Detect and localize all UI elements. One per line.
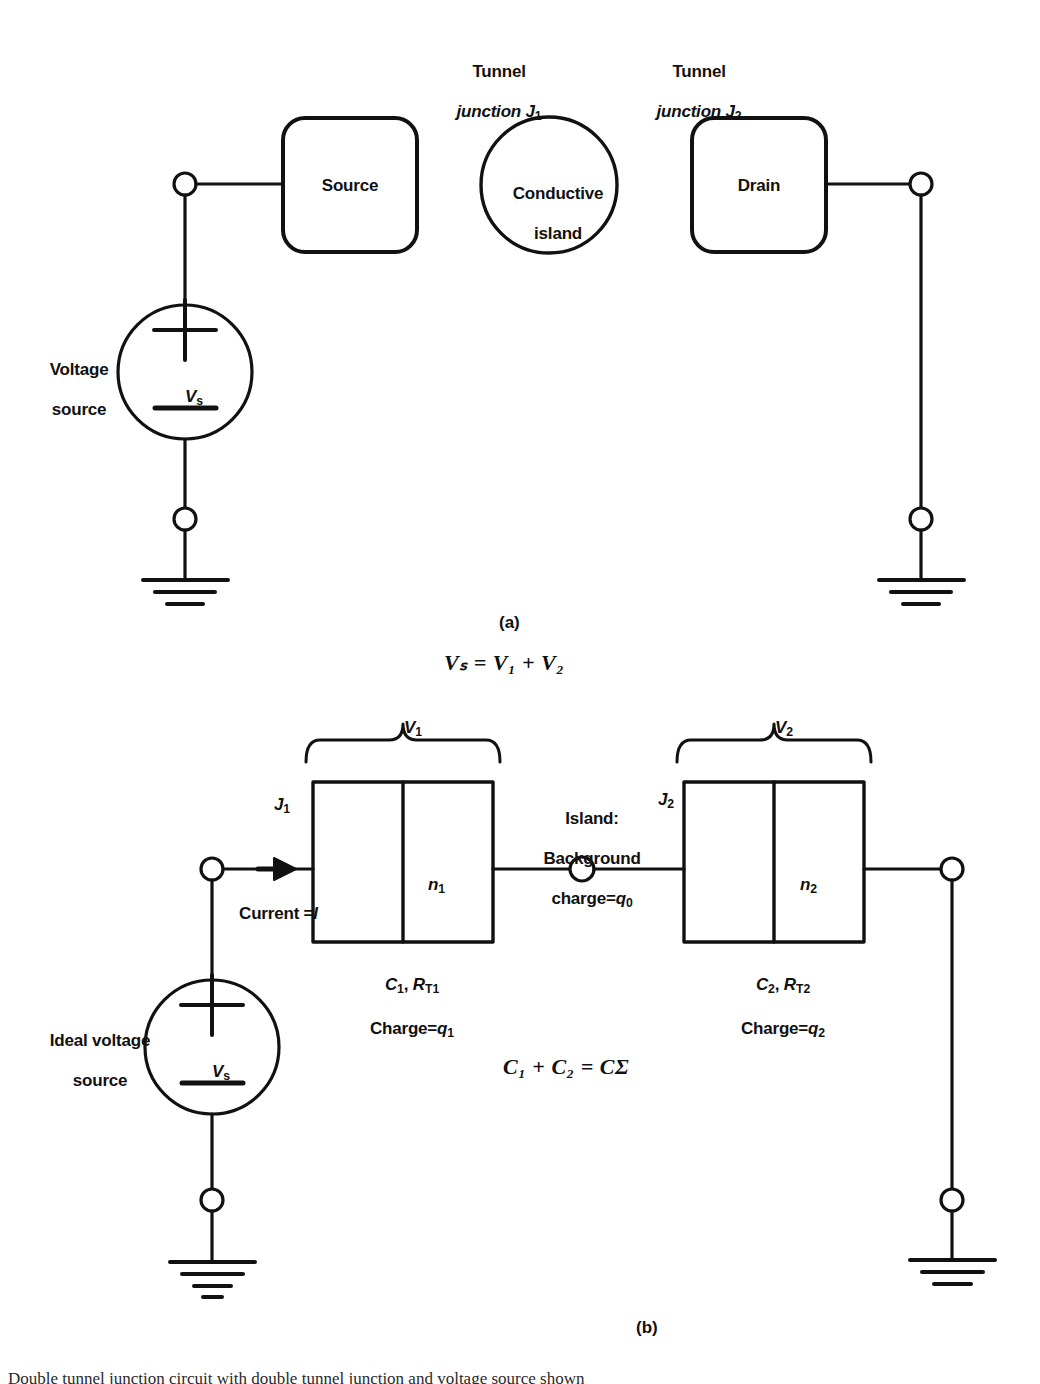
tunnel-junction-2-line2: junction J bbox=[657, 102, 735, 121]
tunnel-junction-1-sub: 1 bbox=[535, 109, 542, 123]
figure-page: Tunnel junction J1 Tunnel junction J2 So… bbox=[0, 0, 1040, 1384]
conductive-island-label: Conductive island bbox=[479, 164, 619, 264]
j1-charge-prefix: Charge= bbox=[370, 1019, 437, 1038]
ideal-voltage-source-line2: source bbox=[73, 1071, 128, 1090]
drain-box-label: Drain bbox=[692, 176, 826, 196]
j1-params-separator: , bbox=[404, 975, 413, 994]
terminal-node-b-ground bbox=[201, 1189, 223, 1211]
ideal-voltage-source-label: Ideal voltage source bbox=[18, 1011, 164, 1111]
voltage-source-a-line1: Voltage bbox=[50, 360, 109, 379]
n1-letter: n bbox=[428, 875, 438, 894]
j2-charge-symbol: q bbox=[808, 1019, 818, 1038]
current-arrow-head bbox=[274, 858, 296, 880]
vs-symbol-b-sub: s bbox=[223, 1069, 230, 1083]
j1-sub: 1 bbox=[283, 802, 290, 816]
tunnel-junction-1-line2: junction J bbox=[457, 102, 535, 121]
n2-sub: 2 bbox=[810, 882, 817, 896]
page-bottom-clipped-text: Double tunnel junction circuit with doub… bbox=[8, 1369, 1032, 1384]
j2-charge-sub: 2 bbox=[818, 1026, 825, 1040]
j2-resistance-letter: R bbox=[784, 975, 796, 994]
island-line1: Island: bbox=[565, 809, 618, 828]
vs-symbol-a-letter: V bbox=[185, 387, 196, 406]
conductive-island-line1: Conductive bbox=[513, 184, 604, 203]
v2-sub: 2 bbox=[786, 725, 793, 739]
junction-1-charge-label: Charge=q1 bbox=[323, 999, 483, 1060]
vs-symbol-a: Vs bbox=[162, 367, 208, 428]
island-charge-label: Island: Background charge=q0 bbox=[512, 789, 654, 930]
n2-letter: n bbox=[800, 875, 810, 894]
current-symbol: I bbox=[313, 904, 318, 923]
tunnel-junction-2-sub: 2 bbox=[735, 109, 742, 123]
island-line2: Background bbox=[543, 849, 640, 868]
current-text: Current = bbox=[239, 904, 313, 923]
v2-brace-label: V2 bbox=[751, 698, 799, 759]
j2-letter: J bbox=[658, 790, 667, 809]
conductive-island-line2: island bbox=[534, 224, 582, 243]
terminal-node-b-right bbox=[941, 858, 963, 880]
equation-vs: Vₛ = V₁ + V₂ bbox=[444, 650, 564, 676]
j1-resistance-letter: R bbox=[413, 975, 425, 994]
source-box-label: Source bbox=[283, 176, 417, 196]
terminal-node-a-left bbox=[174, 173, 196, 195]
voltage-source-label-a: Voltage source bbox=[22, 340, 118, 440]
j1-capacitance-letter: C bbox=[385, 975, 397, 994]
j2-charge-prefix: Charge= bbox=[741, 1019, 808, 1038]
j2-capacitance-sub: 2 bbox=[768, 982, 775, 996]
j2-resistance-sub: T2 bbox=[796, 982, 810, 996]
j2-params-separator: , bbox=[775, 975, 784, 994]
panel-a-caption: (a) bbox=[499, 613, 520, 633]
current-label: Current =I bbox=[221, 884, 371, 944]
n2-label: n2 bbox=[782, 855, 822, 916]
v1-sub: 1 bbox=[415, 725, 422, 739]
n1-label: n1 bbox=[410, 855, 450, 916]
island-line3-sub: 0 bbox=[626, 896, 633, 910]
terminal-node-b-left bbox=[201, 858, 223, 880]
terminal-node-a-right-ground bbox=[910, 508, 932, 530]
v1-letter: V bbox=[404, 718, 415, 737]
v2-letter: V bbox=[775, 718, 786, 737]
island-line3-symbol: q bbox=[616, 889, 626, 908]
n1-sub: 1 bbox=[438, 882, 445, 896]
tunnel-junction-1-label: Tunnel junction J1 bbox=[400, 42, 580, 143]
tunnel-junction-1-line1: Tunnel bbox=[472, 62, 525, 81]
v1-brace-label: V1 bbox=[380, 698, 428, 759]
j1-charge-symbol: q bbox=[437, 1019, 447, 1038]
terminal-node-b-right-ground bbox=[941, 1189, 963, 1211]
j1-resistance-sub: T1 bbox=[425, 982, 439, 996]
vs-symbol-b-letter: V bbox=[212, 1062, 223, 1081]
panel-b-caption: (b) bbox=[636, 1318, 658, 1338]
j2-sub: 2 bbox=[667, 797, 674, 811]
junction-2-charge-label: Charge=q2 bbox=[694, 999, 854, 1060]
equation-capacitance: C₁ + C₂ = CΣ bbox=[503, 1054, 629, 1080]
vs-symbol-a-sub: s bbox=[196, 394, 203, 408]
voltage-source-a-line2: source bbox=[52, 400, 107, 419]
terminal-node-a-right bbox=[910, 173, 932, 195]
tunnel-junction-1-line2-wrap: junction J1 bbox=[457, 102, 542, 121]
j1-charge-sub: 1 bbox=[447, 1026, 454, 1040]
island-line3-prefix: charge= bbox=[551, 889, 615, 908]
vs-symbol-b: Vs bbox=[189, 1042, 235, 1103]
tunnel-junction-2-line2-wrap: junction J2 bbox=[657, 102, 742, 121]
island-line3-wrap: charge=q0 bbox=[551, 889, 632, 908]
j1-letter: J bbox=[274, 795, 283, 814]
ideal-voltage-source-line1: Ideal voltage bbox=[50, 1031, 150, 1050]
j2-capacitance-letter: C bbox=[756, 975, 768, 994]
tunnel-junction-2-line1: Tunnel bbox=[672, 62, 725, 81]
j1-capacitance-sub: 1 bbox=[397, 982, 404, 996]
terminal-node-a-ground bbox=[174, 508, 196, 530]
tunnel-junction-2-label: Tunnel junction J2 bbox=[600, 42, 780, 143]
j1-label: J1 bbox=[256, 775, 296, 836]
